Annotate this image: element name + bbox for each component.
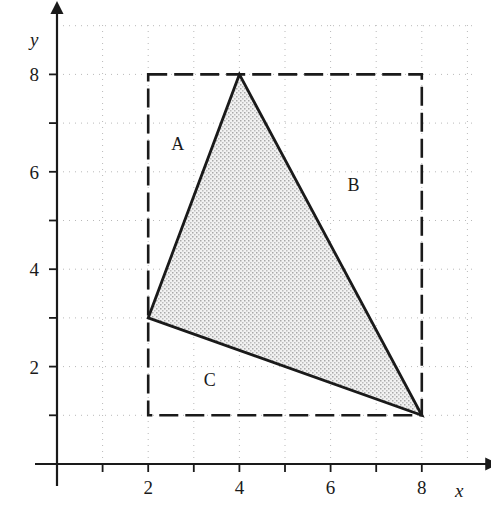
plot-shapes <box>148 74 422 415</box>
x-axis-tick-label: 8 <box>417 477 427 498</box>
coordinate-plane-chart: 24682468 ABC y x <box>0 0 491 523</box>
y-axis-tick-label: 8 <box>30 64 40 85</box>
x-axis-tick-label: 6 <box>326 477 336 498</box>
x-axis-tick-label: 2 <box>143 477 153 498</box>
y-axis-tick-label: 4 <box>30 259 40 280</box>
y-axis-label: y <box>28 29 39 50</box>
shaded-triangle <box>148 74 422 415</box>
cropped-text-remnant: . . . . . <box>34 0 334 1</box>
x-axis-tick-label: 4 <box>235 477 245 498</box>
y-axis-tick-label: 2 <box>30 357 40 378</box>
region-label-a: A <box>171 134 184 154</box>
region-label-b: B <box>347 175 359 195</box>
figure-container: . . . . . 24682468 ABC y x <box>0 0 491 523</box>
y-axis-tick-label: 6 <box>30 162 40 183</box>
x-axis-label: x <box>454 480 464 501</box>
region-label-c: C <box>204 370 216 390</box>
